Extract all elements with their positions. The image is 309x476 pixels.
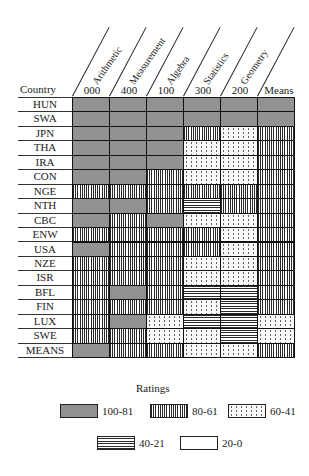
heatmap-cell bbox=[257, 328, 295, 344]
heatmap-cell bbox=[146, 169, 184, 185]
row-label: NGE bbox=[18, 185, 72, 197]
heatmap-cell bbox=[109, 285, 147, 300]
heatmap-cell bbox=[72, 97, 110, 112]
heatmap-cell bbox=[257, 140, 295, 156]
heatmap-cell bbox=[109, 169, 147, 185]
heatmap-cell bbox=[109, 184, 147, 199]
heatmap-cell bbox=[220, 270, 258, 286]
heatmap-cell bbox=[109, 227, 147, 242]
heatmap-cell bbox=[109, 213, 147, 228]
heatmap-cell bbox=[146, 285, 184, 300]
legend-label: 60-41 bbox=[270, 405, 296, 417]
heatmap-cell bbox=[72, 184, 110, 199]
heatmap-cell bbox=[257, 343, 295, 358]
heatmap-cell bbox=[183, 343, 221, 358]
heatmap-cell bbox=[146, 242, 184, 257]
row-label: HUN bbox=[18, 98, 72, 110]
heatmap-cell bbox=[72, 328, 110, 344]
row-label: THA bbox=[18, 141, 72, 153]
heatmap-cell bbox=[183, 97, 221, 112]
heatmap-cell bbox=[72, 169, 110, 185]
heatmap-cell bbox=[183, 184, 221, 199]
heatmap-cell bbox=[257, 111, 295, 127]
heatmap-cell bbox=[183, 299, 221, 315]
header-separator bbox=[18, 97, 72, 98]
heatmap-cell bbox=[220, 343, 258, 358]
heatmap-cell bbox=[183, 155, 221, 170]
heatmap-cell bbox=[220, 299, 258, 315]
heatmap-cell bbox=[257, 227, 295, 242]
heatmap-cell bbox=[183, 285, 221, 300]
heatmap-cell bbox=[257, 242, 295, 257]
row-label: NTH bbox=[18, 199, 72, 211]
heatmap-cell bbox=[72, 343, 110, 358]
heatmap-cell bbox=[109, 270, 147, 286]
heatmap-cell bbox=[109, 314, 147, 329]
heatmap-cell bbox=[257, 256, 295, 271]
heatmap-cell bbox=[146, 343, 184, 358]
heatmap-cell bbox=[257, 198, 295, 214]
heatmap-cell bbox=[72, 213, 110, 228]
legend-swatch bbox=[228, 404, 266, 418]
heatmap-cell bbox=[109, 256, 147, 271]
heatmap-cell bbox=[220, 285, 258, 300]
heatmap-cell bbox=[146, 126, 184, 141]
heatmap-cell bbox=[220, 198, 258, 214]
column-code-label: 300 bbox=[187, 84, 219, 96]
heatmap-cell bbox=[183, 126, 221, 141]
row-label: CBC bbox=[18, 214, 72, 226]
heatmap-cell bbox=[183, 213, 221, 228]
heatmap-cell bbox=[257, 299, 295, 315]
legend-swatch bbox=[150, 404, 188, 418]
heatmap-cell bbox=[72, 227, 110, 242]
column-code-label: 000 bbox=[76, 84, 108, 96]
heatmap-cell bbox=[257, 97, 295, 112]
row-label: MEANS bbox=[18, 344, 72, 356]
heatmap-cell bbox=[72, 155, 110, 170]
row-label: FIN bbox=[18, 300, 72, 312]
row-label: LUX bbox=[18, 315, 72, 327]
heatmap-cell bbox=[183, 328, 221, 344]
heatmap-cell bbox=[220, 328, 258, 344]
heatmap-cell bbox=[72, 256, 110, 271]
heatmap-cell bbox=[220, 111, 258, 127]
legend-swatch bbox=[180, 436, 218, 450]
row-label: BFL bbox=[18, 286, 72, 298]
heatmap-cell bbox=[257, 155, 295, 170]
heatmap-cell bbox=[72, 140, 110, 156]
legend-label: 20-0 bbox=[222, 437, 242, 449]
column-name-label: Algebra bbox=[164, 54, 191, 87]
heatmap-cell bbox=[183, 140, 221, 156]
heatmap-cell bbox=[146, 256, 184, 271]
heatmap-cell bbox=[257, 213, 295, 228]
heatmap-cell bbox=[183, 198, 221, 214]
heatmap-cell bbox=[220, 169, 258, 185]
heatmap-cell bbox=[146, 140, 184, 156]
heatmap-cell bbox=[220, 213, 258, 228]
heatmap-cell bbox=[109, 242, 147, 257]
row-label: JPN bbox=[18, 127, 72, 139]
heatmap-cell bbox=[109, 97, 147, 112]
heatmap-cell bbox=[72, 198, 110, 214]
heatmap-cell bbox=[220, 126, 258, 141]
heatmap-cell bbox=[257, 270, 295, 286]
column-name-label: Measurement bbox=[127, 35, 167, 86]
heatmap-cell bbox=[72, 111, 110, 127]
ratings-diagram: Country000Arithmetic400Measurement100Alg… bbox=[0, 0, 309, 476]
legend-label: 100-81 bbox=[102, 405, 133, 417]
heatmap-cell bbox=[183, 256, 221, 271]
heatmap-cell bbox=[220, 140, 258, 156]
heatmap-cell bbox=[72, 299, 110, 315]
heatmap-cell bbox=[146, 213, 184, 228]
heatmap-cell bbox=[220, 155, 258, 170]
heatmap-cell bbox=[109, 198, 147, 214]
heatmap-cell bbox=[257, 184, 295, 199]
heatmap-cell bbox=[109, 299, 147, 315]
row-label: NZE bbox=[18, 257, 72, 269]
legend-title: Ratings bbox=[136, 382, 170, 394]
row-label: SWE bbox=[18, 329, 72, 341]
legend-swatch bbox=[60, 404, 98, 418]
row-label: ENW bbox=[18, 228, 72, 240]
heatmap-cell bbox=[109, 140, 147, 156]
heatmap-cell bbox=[72, 314, 110, 329]
